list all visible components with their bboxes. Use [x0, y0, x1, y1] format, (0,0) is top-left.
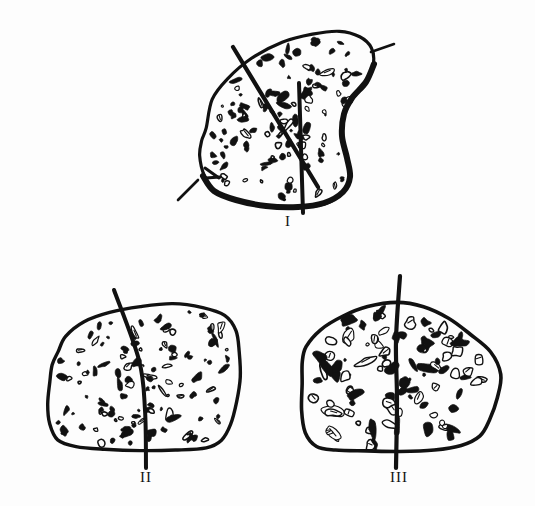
- speckle: [430, 412, 438, 418]
- speckle: [286, 190, 290, 193]
- speckle: [463, 368, 473, 376]
- speckle: [435, 358, 440, 365]
- speckle: [132, 422, 135, 425]
- speckle: [293, 189, 296, 192]
- speckle: [451, 368, 460, 378]
- specimen-label-ii: II: [116, 469, 176, 486]
- speckle: [168, 345, 176, 353]
- speckle: [327, 400, 335, 407]
- speckle: [114, 419, 116, 422]
- speckle: [189, 432, 191, 436]
- speckle: [423, 349, 426, 353]
- speckle: [170, 329, 176, 335]
- speckle: [326, 430, 333, 435]
- speckle: [121, 432, 125, 439]
- speckle: [78, 381, 81, 384]
- speckle: [200, 313, 205, 317]
- speckle: [221, 105, 223, 107]
- speckle: [86, 370, 89, 374]
- speckle: [326, 337, 337, 345]
- speckle: [243, 179, 248, 182]
- speckle: [378, 366, 383, 371]
- speckle: [225, 349, 228, 351]
- speckle: [151, 367, 156, 372]
- speckle: [287, 177, 293, 183]
- speckle: [290, 129, 293, 132]
- speckle: [341, 371, 350, 382]
- speckle: [313, 377, 322, 383]
- speckle: [107, 336, 110, 339]
- speckle: [342, 80, 349, 86]
- speckle: [344, 358, 347, 361]
- specimen-label-i: I: [258, 213, 318, 230]
- speckle: [120, 394, 127, 399]
- speckle: [243, 114, 246, 118]
- speckle: [98, 439, 105, 447]
- speckle: [366, 343, 369, 346]
- speckle: [160, 407, 162, 411]
- speckle: [408, 378, 411, 382]
- speckle: [271, 156, 274, 159]
- figure-root: I II III: [0, 0, 535, 506]
- speckle: [429, 328, 434, 332]
- speckle: [278, 193, 285, 200]
- speckle: [322, 110, 326, 114]
- speckle: [322, 134, 326, 141]
- specimen-label-iii: III: [369, 469, 429, 486]
- speckle: [340, 177, 344, 180]
- speckle: [265, 132, 270, 137]
- speckle: [293, 48, 301, 56]
- speckle: [308, 394, 318, 403]
- speckle: [77, 362, 80, 366]
- speckle: [152, 386, 155, 389]
- speckle: [160, 348, 162, 350]
- speckle: [423, 373, 426, 376]
- speckle: [137, 409, 140, 412]
- speckle: [118, 417, 123, 420]
- speckle: [179, 383, 183, 386]
- speckle: [139, 348, 142, 351]
- speckle: [442, 424, 447, 428]
- speckle: [93, 428, 97, 431]
- speckle: [102, 412, 107, 416]
- speckle: [288, 153, 291, 157]
- speckle: [235, 86, 240, 90]
- speckle: [148, 409, 154, 414]
- speckle: [224, 146, 228, 149]
- speckle: [275, 143, 281, 149]
- left-notch-2: [206, 177, 220, 178]
- specimen-figure-canvas: [0, 0, 535, 506]
- speckle: [475, 354, 483, 364]
- speckle: [231, 102, 235, 106]
- speckle: [221, 178, 224, 183]
- speckle: [216, 414, 220, 418]
- speckle: [97, 322, 101, 330]
- speckle: [260, 180, 262, 183]
- speckle: [146, 387, 150, 391]
- speckle: [356, 421, 361, 425]
- speckle: [128, 441, 132, 445]
- speckle: [85, 395, 88, 398]
- speckle: [225, 181, 230, 186]
- speckle: [452, 347, 463, 357]
- speckle: [109, 322, 113, 325]
- speckle: [72, 412, 75, 414]
- speckle: [285, 183, 292, 191]
- speckle: [239, 94, 242, 97]
- speckle: [207, 360, 212, 364]
- speckle: [222, 129, 227, 135]
